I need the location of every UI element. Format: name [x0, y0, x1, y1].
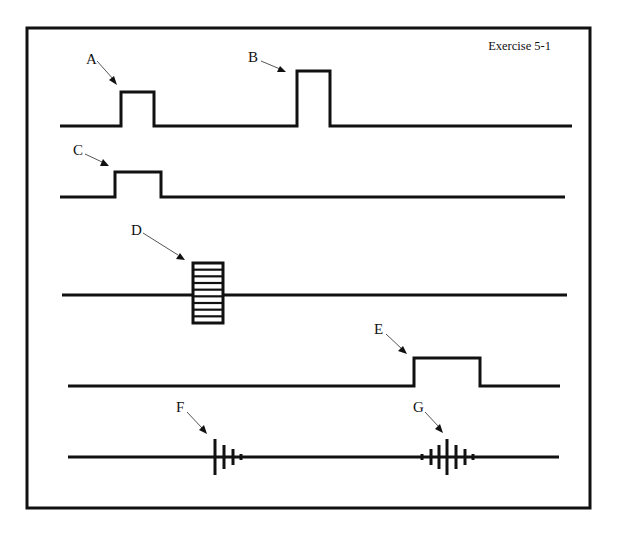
ladder-outline	[193, 263, 223, 323]
label-f: F	[176, 399, 184, 415]
arrow-head-b	[277, 66, 286, 72]
signal-trace-ab	[60, 71, 572, 126]
exercise-diagram: Exercise 5-1 A B C D E F G	[0, 0, 619, 535]
label-c: C	[73, 142, 83, 158]
label-g: G	[413, 399, 424, 415]
leader-line-c	[85, 154, 102, 162]
row-fg: F G	[68, 399, 559, 475]
leader-line-b	[261, 61, 280, 69]
label-d: D	[131, 222, 142, 238]
leader-line-e	[386, 334, 402, 349]
label-e: E	[374, 321, 383, 337]
arrow-head-a	[109, 76, 117, 85]
row-d: D	[62, 222, 567, 323]
leader-line-f	[187, 412, 202, 428]
row-c: C	[60, 142, 565, 197]
label-b: B	[248, 49, 258, 65]
leader-line-g	[425, 412, 439, 427]
arrow-head-g	[435, 424, 443, 433]
diagram-frame	[27, 28, 590, 508]
arrow-head-c	[100, 159, 109, 166]
row-e: E	[68, 321, 560, 386]
row-ab: A B	[60, 49, 572, 126]
leader-line-d	[143, 233, 178, 255]
signal-trace-c	[60, 172, 565, 197]
exercise-title: Exercise 5-1	[488, 39, 551, 53]
signal-trace-e	[68, 358, 560, 386]
label-a: A	[86, 51, 97, 67]
leader-line-a	[97, 61, 114, 80]
ladder-burst-d	[193, 263, 223, 323]
